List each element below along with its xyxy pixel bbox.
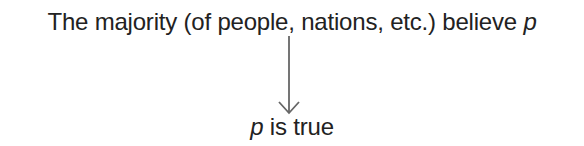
conclusion-variable: p (250, 113, 263, 140)
conclusion-statement: p is true (0, 113, 584, 141)
down-arrow-icon (276, 36, 302, 116)
conclusion-text: is true (270, 113, 334, 140)
premise-statement: The majority (of people, nations, etc.) … (0, 8, 584, 36)
premise-variable: p (523, 8, 536, 35)
premise-text: The majority (of people, nations, etc.) … (47, 8, 517, 35)
